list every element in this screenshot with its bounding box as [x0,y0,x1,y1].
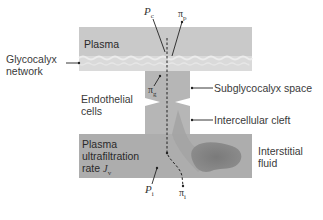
endothelial-line-2: cells [81,105,133,117]
pc-label: Pc [144,5,154,20]
ultrafiltration-line-1: Plasma [82,138,139,150]
pc-base: P [144,5,151,17]
pig-label: πg [148,84,157,98]
ultrafiltration-line-2: ultrafiltration [82,150,139,162]
jv-symbol: Jv [103,163,111,174]
pc-sub: c [151,12,154,20]
pii-label: πi [179,187,186,201]
pig-sub: g [153,90,157,98]
diagram-canvas [0,0,323,220]
glycocalyx-line-2: network [6,65,57,77]
interstitial-label: Interstitial fluid [258,145,303,169]
interstitial-line-2: fluid [258,157,303,169]
plasma-label: Plasma [84,38,119,50]
glycocalyx-line-1: Glycocalyx [6,53,57,65]
pip-label: πp [178,8,187,22]
endothelial-line-1: Endothelial [81,93,133,105]
pi-cap-sub: i [152,190,154,198]
jv-sub: v [108,169,112,177]
pi-cap-base: P [145,183,152,195]
pii-sub: i [184,193,186,201]
endothelial-cells-label: Endothelial cells [81,93,133,117]
ultrafiltration-label: Plasma ultrafiltration rate Jv [82,138,139,179]
interstitial-line-1: Interstitial [258,145,303,157]
rate-word: rate [82,162,100,174]
ultrafiltration-line-3: rate Jv [82,162,139,179]
pip-sub: p [183,14,187,22]
subglycocalyx-label: Subglycocalyx space [214,82,312,94]
intercellular-label: Intercellular cleft [214,114,290,126]
pi-cap-label: Pi [145,183,154,198]
glycocalyx-label: Glycocalyx network [6,53,57,77]
